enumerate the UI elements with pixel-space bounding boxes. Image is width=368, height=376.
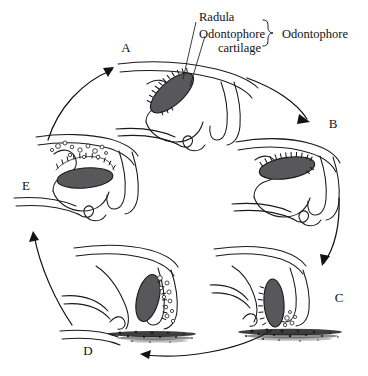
stage-d-drawing (60, 246, 196, 345)
substrate-d (108, 331, 196, 343)
food-particles-e (50, 141, 107, 159)
label-odontophore-cartilage-line2: cartilage (218, 41, 261, 55)
arrow-d-to-e (29, 231, 72, 325)
odontophore-cartilage-c (262, 278, 285, 327)
label-radula: Radula (199, 10, 235, 24)
food-particles-d (158, 276, 175, 323)
arrow-a-to-b (247, 78, 310, 124)
stage-a-drawing (116, 62, 258, 151)
stage-letter-e: E (22, 178, 30, 193)
figure-root: Radula Odontophore cartilage Odontophore… (0, 0, 368, 376)
stage-b-drawing (232, 139, 340, 226)
arrow-b-to-c (320, 198, 339, 266)
label-odontophore-cartilage-line1: Odontophore (199, 27, 265, 41)
stage-letter-a: A (121, 40, 131, 55)
radula-cycle-diagram: Radula Odontophore cartilage Odontophore… (0, 0, 368, 376)
odontophore-cartilage-a (144, 66, 200, 119)
arrow-e-to-a (48, 67, 114, 140)
label-odontophore-group: Odontophore (282, 27, 348, 41)
stage-letter-d: D (83, 343, 92, 358)
stage-letter-b: B (329, 116, 338, 131)
stage-e-drawing (14, 135, 138, 221)
stage-letter-c: C (335, 290, 344, 305)
odontophore-cartilage-e (56, 166, 114, 191)
radula-teeth-e (57, 153, 116, 169)
